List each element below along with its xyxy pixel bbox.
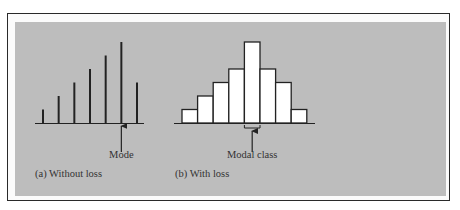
chart-without-loss: Mode (a) Without loss (35, 42, 144, 180)
histogram-bar-5 (244, 42, 260, 123)
histogram-bar-3 (213, 83, 229, 124)
histogram-bar-7 (276, 83, 292, 124)
histogram-bar-1 (182, 110, 198, 124)
histogram-bar-4 (229, 69, 245, 123)
modal-class-bracket (244, 125, 260, 128)
histogram-bar-8 (291, 110, 307, 124)
mode-label: Mode (109, 149, 134, 160)
histogram-bar-2 (198, 96, 214, 123)
histogram-bar-6 (260, 69, 276, 123)
panel-a-caption: (a) Without loss (35, 168, 102, 180)
panel-b-caption: (b) With loss (175, 168, 229, 180)
modal-class-label: Modal class (227, 149, 277, 160)
figure-svg: Mode (a) Without loss Modal class (b) Wi… (0, 0, 460, 210)
chart-with-loss: Modal class (b) With loss (174, 42, 315, 180)
